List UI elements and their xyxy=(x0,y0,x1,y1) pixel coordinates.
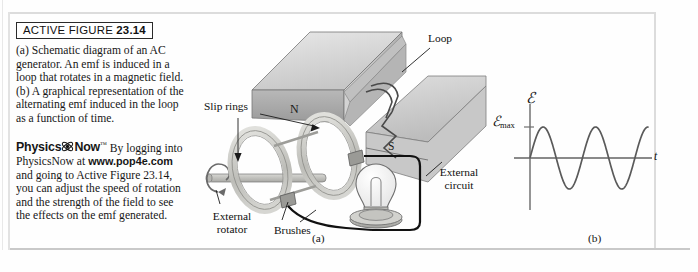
caption-part-a: (a) Schematic diagram of an AC generator… xyxy=(16,44,188,85)
physicsnow-text-after-url: and going to Active Figure 23.14, you ca… xyxy=(16,169,181,223)
panel-a-generator-diagram: N S xyxy=(196,14,486,242)
slip-rings-label: Slip rings xyxy=(204,100,248,113)
external-circuit-label: External circuit xyxy=(430,166,488,191)
caption-part-b: (b) A graphical representation of the al… xyxy=(16,85,188,126)
physicsnow-logo-physics: Physics xyxy=(16,140,61,154)
figure-frame-left xyxy=(8,12,10,250)
active-figure-label: ACTIVE FIGURE xyxy=(23,24,116,36)
panel-b-emf-graph: ℰ ℰmax t xyxy=(492,92,668,242)
y-axis-label: ℰ xyxy=(526,92,535,105)
emf-max-symbol: ℰ xyxy=(492,114,500,129)
emf-max-label: ℰmax xyxy=(492,116,515,132)
physicsnow-logo-now: Now xyxy=(74,140,100,154)
caption-column: ACTIVE FIGURE 23.14 (a) Schematic diagra… xyxy=(16,20,188,223)
external-rotator-line1: External xyxy=(213,210,252,222)
generator-svg: N S xyxy=(196,14,486,242)
external-circuit-line2: circuit xyxy=(444,179,473,191)
panel-b-tag: (b) xyxy=(588,232,601,244)
external-circuit-line1: External xyxy=(440,166,479,178)
physicsnow-block: Physics Now™ By logging into PhysicsNow … xyxy=(16,139,188,223)
north-pole-label: N xyxy=(290,102,299,116)
active-figure-23-14: ACTIVE FIGURE 23.14 (a) Schematic diagra… xyxy=(0,0,698,272)
emf-max-subscript: max xyxy=(500,120,515,130)
atom-icon xyxy=(61,141,74,152)
external-rotator-label: External rotator xyxy=(200,210,264,235)
emf-chart-svg xyxy=(492,92,668,242)
physicsnow-logo: Physics Now xyxy=(16,140,100,154)
loop-label: Loop xyxy=(428,32,452,45)
external-rotator-line2: rotator xyxy=(217,223,247,235)
figure-frame-bottom xyxy=(8,248,690,250)
brushes-label: Brushes xyxy=(274,224,311,237)
active-figure-number: 23.14 xyxy=(116,24,146,36)
caption-body: (a) Schematic diagram of an AC generator… xyxy=(16,44,188,126)
page-rule xyxy=(2,0,3,250)
panel-a-tag: (a) xyxy=(312,232,325,244)
trademark-symbol: ™ xyxy=(100,141,107,149)
x-axis-label: t xyxy=(654,150,657,163)
physicsnow-url[interactable]: www.pop4e.com xyxy=(88,155,173,167)
north-magnet-block: N xyxy=(252,32,406,126)
active-figure-badge: ACTIVE FIGURE 23.14 xyxy=(16,22,153,39)
